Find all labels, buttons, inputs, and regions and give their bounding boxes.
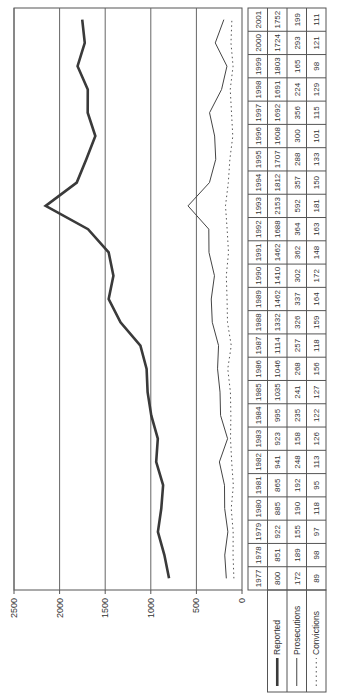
table-cell: 113 — [312, 455, 321, 468]
table-cell: 189 — [293, 548, 302, 562]
year-label: 1983 — [254, 429, 263, 447]
table-cell: 158 — [293, 431, 302, 445]
series-lines — [46, 20, 234, 579]
table-cell: 1812 — [273, 173, 282, 191]
table-cell: 118 — [312, 502, 321, 515]
table-cell: 995 — [273, 408, 282, 422]
table-cell: 156 — [312, 362, 321, 376]
table-cell: 118 — [312, 339, 321, 352]
table-cell: 851 — [273, 548, 282, 562]
table-cell: 98 — [312, 61, 321, 70]
table-cell: 326 — [293, 315, 302, 329]
table-cell: 800 — [273, 571, 282, 585]
table-cell: 1707 — [273, 150, 282, 168]
table-cell: 122 — [312, 408, 321, 422]
series-line-prosecutions — [188, 20, 228, 579]
table-cell: 1035 — [273, 383, 282, 401]
table-cell: 1691 — [273, 80, 282, 98]
table-cell: 288 — [293, 152, 302, 166]
y-tick-label: 2000 — [55, 598, 65, 618]
table-cell: 356 — [293, 106, 302, 120]
table-cell: 865 — [273, 478, 282, 492]
legend-label: Convictions — [311, 611, 321, 655]
table-cell: 155 — [293, 525, 302, 539]
y-tick-label: 0 — [237, 598, 247, 603]
table-cell: 1410 — [273, 266, 282, 284]
table-cell: 159 — [312, 315, 321, 329]
table-cell: 150 — [312, 175, 321, 189]
table-cell: 257 — [293, 338, 302, 352]
table-cell: 1752 — [273, 10, 282, 28]
table-cell: 172 — [293, 571, 302, 585]
table-cell: 181 — [312, 199, 321, 213]
year-label: 1980 — [254, 499, 263, 517]
gridlines — [14, 8, 242, 594]
table-cell: 133 — [312, 152, 321, 166]
table-cell: 592 — [293, 199, 302, 213]
table-cell: 922 — [273, 525, 282, 539]
year-label: 2000 — [254, 33, 263, 51]
table-cell: 1803 — [273, 57, 282, 75]
y-tick-label: 500 — [191, 598, 201, 613]
year-label: 1988 — [254, 313, 263, 331]
year-label: 1981 — [254, 476, 263, 494]
year-label: 1984 — [254, 406, 263, 424]
year-label: 1986 — [254, 359, 263, 377]
table-cell: 364 — [293, 222, 302, 236]
legend-label: Reported — [272, 620, 282, 655]
table-cell: 235 — [293, 408, 302, 422]
year-label: 1992 — [254, 220, 263, 238]
year-label: 1977 — [254, 569, 263, 587]
y-axis-tick-labels: 05001000150020002500 — [9, 598, 247, 618]
year-label: 1994 — [254, 173, 263, 191]
table-cell: 224 — [293, 82, 302, 96]
table-cell: 190 — [293, 501, 302, 515]
table-cell: 121 — [312, 36, 321, 50]
table-cell: 337 — [293, 292, 302, 306]
table-cell: 268 — [293, 362, 302, 376]
table-cell: 126 — [312, 431, 321, 445]
table-cell: 293 — [293, 36, 302, 50]
table-cell: 2153 — [273, 196, 282, 214]
table-cell: 89 — [312, 573, 321, 582]
table-cell: 199 — [293, 12, 302, 26]
year-label: 1989 — [254, 290, 263, 308]
table-cell: 302 — [293, 269, 302, 283]
table-cell: 164 — [312, 292, 321, 306]
year-label: 1987 — [254, 336, 263, 354]
table-cell: 362 — [293, 245, 302, 259]
series-line-convictions — [225, 20, 233, 579]
table-cell: 1462 — [273, 290, 282, 308]
year-label: 1997 — [254, 103, 263, 121]
year-label: 1996 — [254, 127, 263, 145]
year-label: 1982 — [254, 453, 263, 471]
table-cell: 885 — [273, 501, 282, 515]
table-cell: 357 — [293, 175, 302, 189]
table-cell: 1332 — [273, 313, 282, 331]
table-cell: 172 — [312, 269, 321, 283]
year-label: 1978 — [254, 546, 263, 564]
y-tick-label: 1000 — [146, 598, 156, 618]
y-tick-label: 1500 — [100, 598, 110, 618]
table-cell: 923 — [273, 431, 282, 445]
table-cell: 129 — [312, 82, 321, 96]
year-label: 1993 — [254, 196, 263, 214]
table-cell: 115 — [312, 106, 321, 119]
year-label: 1998 — [254, 80, 263, 98]
rotated-chart: 05001000150020002500 1977197819791980198… — [0, 0, 350, 696]
table-cell: 941 — [273, 455, 282, 469]
table-cell: 1692 — [273, 103, 282, 121]
table-cell: 101 — [312, 129, 321, 143]
table-cell: 1608 — [273, 127, 282, 145]
line-chart-with-data-table: 05001000150020002500 1977197819791980198… — [0, 0, 350, 696]
y-tick-label: 2500 — [9, 598, 19, 618]
year-label: 1995 — [254, 150, 263, 168]
legend-label: Prosecutions — [292, 606, 302, 655]
table-cell: 95 — [312, 480, 321, 489]
year-label: 1985 — [254, 383, 263, 401]
table-cell: 165 — [293, 59, 302, 73]
year-label: 1979 — [254, 522, 263, 540]
table-cell: 148 — [312, 245, 321, 259]
table-cell: 127 — [312, 385, 321, 399]
table-cell: 111 — [312, 13, 321, 26]
